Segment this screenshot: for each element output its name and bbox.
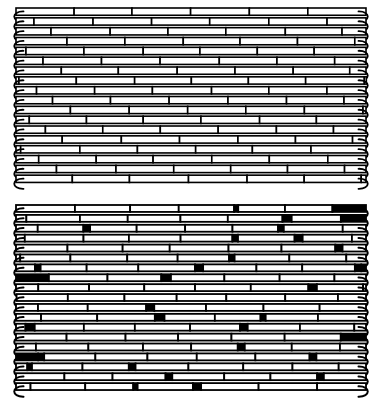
figure-regular-diagonal-twill [10,5,391,196]
figure-irregular-chevron-twill [10,202,391,404]
figure-sheet [0,0,391,412]
